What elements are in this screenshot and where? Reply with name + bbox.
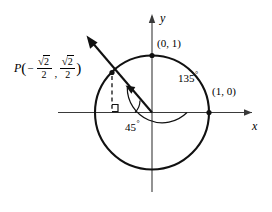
y-axis-label: y <box>160 12 165 24</box>
angle-label-135: 135° <box>178 71 198 84</box>
point-dot-right <box>206 110 211 115</box>
x-axis-arrowhead <box>244 109 252 115</box>
point-label-p: P ( − √2 2 , √2 2 ) <box>14 54 81 82</box>
right-angle-marker <box>112 105 118 112</box>
y-axis-arrowhead <box>149 14 155 23</box>
point-dot-terminal <box>109 70 114 75</box>
point-p-comma: , <box>55 68 58 82</box>
angle-label-45: 45° <box>125 120 140 133</box>
point-p-close-paren: ) <box>76 61 81 76</box>
radicand-x: 2 <box>43 55 50 67</box>
point-p-x-fraction: √2 2 <box>37 56 52 80</box>
denominator-x: 2 <box>41 70 48 81</box>
point-p-variable: P <box>14 62 21 74</box>
x-axis-label: x <box>252 120 257 132</box>
point-p-y-radical: √2 <box>61 56 75 68</box>
y-axis <box>149 14 155 192</box>
point-dot-top <box>149 53 154 58</box>
point-p-minus-sign: − <box>27 63 33 74</box>
point-label-1-0: (1, 0) <box>212 86 236 97</box>
radicand-y: 2 <box>67 55 74 67</box>
angle-45-degree-symbol: ° <box>137 119 140 128</box>
point-p-x-radical: √2 <box>37 56 51 68</box>
point-p-y-fraction: √2 2 <box>60 56 75 80</box>
denominator-y: 2 <box>64 70 71 81</box>
point-label-0-1: (0, 1) <box>157 38 181 49</box>
unit-circle-figure <box>0 0 272 212</box>
point-p-open-paren: ( <box>21 61 26 76</box>
x-axis <box>58 109 252 115</box>
angle-135-degree-symbol: ° <box>195 70 198 79</box>
angle-45-value: 45 <box>125 121 136 133</box>
angle-135-value: 135 <box>178 72 195 84</box>
